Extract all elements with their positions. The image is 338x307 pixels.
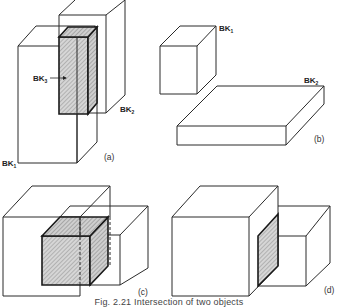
panel-d: (d) xyxy=(172,186,335,296)
panel-label-c: (c) xyxy=(138,287,148,297)
block-bk2-slab-b xyxy=(177,86,324,145)
intersection-c xyxy=(42,217,108,285)
label-bk1: BK1 xyxy=(2,159,17,169)
label-bk2: BK2 xyxy=(304,76,319,86)
contact-face-d xyxy=(258,214,278,286)
panel-a: BK3 BK2 BK1 (a) xyxy=(2,0,135,169)
figure-canvas: BK3 BK2 BK1 (a) BK1 BK2 (b) xyxy=(0,0,338,307)
panel-label-d: (d) xyxy=(324,285,335,295)
block-bk1-b xyxy=(160,26,216,94)
figure-caption: Fig. 2.21 Intersection of two objects xyxy=(0,297,338,307)
panel-label-b: (b) xyxy=(314,134,325,144)
panel-b: BK1 BK2 (b) xyxy=(160,24,325,145)
block-bk3-intersection-a xyxy=(50,27,97,163)
panel-label-a: (a) xyxy=(104,152,115,162)
panel-c: (c) xyxy=(3,186,148,297)
label-bk3: BK3 xyxy=(33,74,48,84)
label-bk1: BK1 xyxy=(219,24,234,34)
label-bk2: BK2 xyxy=(120,105,135,115)
